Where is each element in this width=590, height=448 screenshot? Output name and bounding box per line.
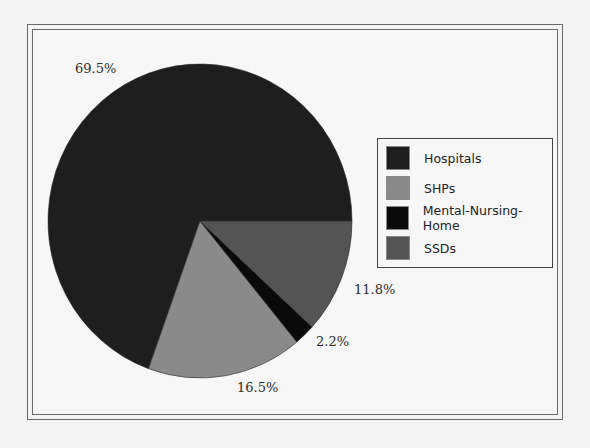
- legend-item-ssds: SSDs: [386, 236, 456, 260]
- label-mental-nursing-home-pct: 2.2%: [316, 334, 349, 349]
- legend-swatch-shps: [386, 176, 410, 200]
- legend-label-shps: SHPs: [424, 181, 455, 196]
- legend-swatch-mental-nursing-home: [386, 206, 409, 230]
- label-ssds-pct: 11.8%: [354, 282, 395, 297]
- legend-item-hospitals: Hospitals: [386, 146, 482, 170]
- legend: Hospitals SHPs Mental-Nursing-Home SSDs: [377, 138, 553, 268]
- legend-swatch-ssds: [386, 236, 410, 260]
- legend-label-mental-nursing-home: Mental-Nursing-Home: [423, 203, 552, 233]
- label-shps-pct: 16.5%: [237, 380, 278, 395]
- legend-item-shps: SHPs: [386, 176, 455, 200]
- label-hospitals-pct: 69.5%: [75, 61, 116, 76]
- legend-item-mental-nursing-home: Mental-Nursing-Home: [386, 206, 552, 230]
- legend-label-ssds: SSDs: [424, 241, 456, 256]
- legend-swatch-hospitals: [386, 146, 410, 170]
- legend-label-hospitals: Hospitals: [424, 151, 482, 166]
